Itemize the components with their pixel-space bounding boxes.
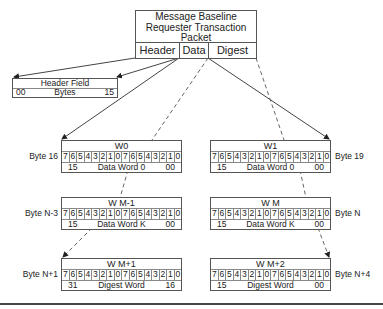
bit-cell: 4 [294, 152, 302, 162]
bit-cell: 7 [211, 209, 219, 219]
bit-cell: 6 [279, 209, 287, 219]
word-lsb: 00 [315, 280, 324, 291]
bit-cell: 4 [294, 209, 302, 219]
packet-title-line-1: Message Baseline [136, 12, 256, 23]
bit-cell: 1 [167, 209, 175, 219]
bit-cell: 0 [264, 152, 272, 162]
word-description: Digest Word [62, 280, 181, 291]
word-box-w1: W1 7654321076543210 15 Data Word 0 00 [210, 140, 331, 173]
bit-cell: 0 [115, 152, 123, 162]
bit-cell: 6 [70, 152, 78, 162]
bit-cell: 0 [324, 270, 331, 280]
bit-cell: 7 [62, 209, 70, 219]
bit-cell: 4 [294, 270, 302, 280]
bit-cell: 0 [324, 152, 331, 162]
bit-cell: 3 [92, 270, 100, 280]
bit-cell: 5 [77, 270, 85, 280]
bit-cell: 4 [145, 152, 153, 162]
bit-cell: 4 [234, 209, 242, 219]
bit-cell: 0 [175, 270, 182, 280]
bit-cell: 2 [160, 152, 168, 162]
bit-cell: 5 [226, 152, 234, 162]
bit-cell: 7 [122, 270, 130, 280]
bit-cell: 5 [137, 270, 145, 280]
bit-cell: 5 [286, 209, 294, 219]
word-footer: 15 Data Word K 00 [211, 219, 330, 230]
bit-cell: 3 [92, 152, 100, 162]
bit-cell: 1 [107, 152, 115, 162]
bit-cell: 3 [241, 270, 249, 280]
bit-cell: 4 [85, 152, 93, 162]
bit-cell: 5 [77, 152, 85, 162]
bit-cell: 3 [301, 270, 309, 280]
bit-cell: 6 [130, 209, 138, 219]
word-description: Data Word 0 [211, 162, 330, 173]
bit-cell: 7 [271, 152, 279, 162]
word-footer: 31 Digest Word 16 [62, 280, 181, 291]
bit-cell: 4 [145, 270, 153, 280]
bit-cell: 3 [152, 209, 160, 219]
word-footer: 15 Digest Word 00 [211, 280, 330, 291]
bit-cell: 4 [85, 209, 93, 219]
bit-cell: 2 [309, 270, 317, 280]
packet-field-digest: Digest [209, 43, 256, 58]
bit-cell: 7 [62, 152, 70, 162]
bit-cell: 2 [309, 209, 317, 219]
bit-cell: 6 [130, 270, 138, 280]
word-lsb: 00 [315, 219, 324, 230]
bit-cell: 0 [115, 209, 123, 219]
bit-cell: 5 [286, 152, 294, 162]
packet-field-header: Header [136, 43, 180, 58]
bit-cell: 2 [249, 152, 257, 162]
bit-cell: 7 [122, 152, 130, 162]
byte-label-w1: Byte 19 [335, 151, 364, 161]
word-lsb: 00 [315, 162, 324, 173]
bit-cell: 1 [316, 152, 324, 162]
byte-label-wm: Byte N [335, 208, 361, 218]
bit-cell: 5 [137, 152, 145, 162]
bit-cell: 0 [264, 209, 272, 219]
bit-cell: 1 [316, 209, 324, 219]
bit-cell: 7 [122, 209, 130, 219]
bit-cell: 3 [152, 152, 160, 162]
bit-cell: 6 [279, 270, 287, 280]
packet-field-data: Data [180, 43, 209, 58]
word-lsb: 16 [166, 280, 175, 291]
word-description: Data Word K [211, 219, 330, 230]
bit-cell: 3 [301, 152, 309, 162]
word-title: W M+1 [62, 259, 181, 269]
word-box-wm+2: W M+2 7654321076543210 15 Digest Word 00 [210, 258, 331, 291]
bit-cell: 1 [316, 270, 324, 280]
packet-title: Message Baseline Requester Transaction P… [136, 12, 256, 44]
bit-cell: 3 [301, 209, 309, 219]
bit-cell: 2 [100, 152, 108, 162]
header-field-box: Header Field 00 Bytes 15 [12, 78, 118, 98]
word-title: W M-1 [62, 198, 181, 208]
bottom-rule [0, 303, 383, 305]
bit-cell: 7 [62, 270, 70, 280]
bit-cell: 1 [167, 270, 175, 280]
word-title: W1 [211, 141, 330, 151]
bit-cell: 2 [160, 270, 168, 280]
word-box-wm-1: W M-1 7654321076543210 15 Data Word K 00 [61, 197, 182, 230]
bit-cell: 4 [145, 209, 153, 219]
bit-cell: 0 [175, 152, 182, 162]
bit-cell: 3 [92, 209, 100, 219]
bit-cell: 6 [279, 152, 287, 162]
bit-cell: 6 [219, 270, 227, 280]
bit-cell: 1 [107, 270, 115, 280]
bit-cell: 6 [219, 152, 227, 162]
packet-box: Message Baseline Requester Transaction P… [135, 10, 257, 59]
bit-cell: 5 [77, 209, 85, 219]
bit-cell: 6 [219, 209, 227, 219]
header-field-unit: Bytes [13, 88, 117, 97]
word-lsb: 00 [166, 219, 175, 230]
word-box-wm+1: W M+1 7654321076543210 31 Digest Word 16 [61, 258, 182, 291]
word-title: W M [211, 198, 330, 208]
bit-cell: 1 [107, 209, 115, 219]
word-description: Data Word 0 [62, 162, 181, 173]
bit-cell: 2 [100, 270, 108, 280]
bit-cell: 2 [160, 209, 168, 219]
bit-cell: 3 [241, 209, 249, 219]
packet-fields-row: Header Data Digest [136, 42, 256, 58]
